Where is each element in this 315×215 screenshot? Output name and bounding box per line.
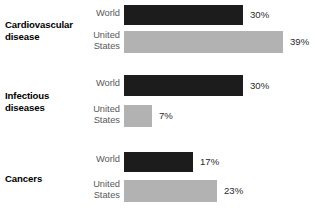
bar-row-cardiovascular-world: World 30%: [0, 4, 315, 31]
bar-value-world-infectious: 30%: [250, 80, 269, 91]
series-label-world: World: [0, 78, 120, 89]
bar-row-cardiovascular-united-states: United States 39%: [0, 30, 315, 57]
bar-value-united-states-infectious: 7%: [159, 110, 173, 121]
bar-world-cardiovascular: [124, 5, 243, 25]
series-label-united-states: United States: [0, 104, 120, 126]
series-label-united-states: United States: [0, 179, 120, 201]
series-label-united-states: United States: [0, 30, 120, 52]
series-label-line1: United: [0, 104, 120, 115]
series-label-line1: United: [0, 179, 120, 190]
series-label-world: World: [0, 154, 120, 165]
series-label-line1: United: [0, 30, 120, 41]
series-label-line2: States: [0, 41, 120, 52]
chart-group-cancers: Cancers World 17% United States 23%: [0, 147, 315, 209]
bar-row-infectious-world: World 30%: [0, 74, 315, 101]
bar-united-states-infectious: [124, 105, 152, 127]
bar-value-world-cardiovascular: 30%: [250, 9, 269, 20]
series-label-line1: World: [0, 78, 120, 89]
bar-united-states-cardiovascular: [124, 31, 283, 53]
bar-value-united-states-cardiovascular: 39%: [290, 36, 309, 47]
bar-world-infectious: [124, 75, 243, 96]
bar-united-states-cancers: [124, 180, 217, 202]
series-label-line1: World: [0, 154, 120, 165]
bar-row-infectious-united-states: United States 7%: [0, 103, 315, 130]
series-label-line2: States: [0, 190, 120, 201]
bar-row-cancers-united-states: United States 23%: [0, 177, 315, 204]
chart-group-cardiovascular-disease: Cardiovascular disease World 30% United …: [0, 0, 315, 62]
chart-group-infectious-diseases: Infectious diseases World 30% United Sta…: [0, 70, 315, 132]
series-label-line2: States: [0, 115, 120, 126]
bar-value-united-states-cancers: 23%: [224, 185, 243, 196]
series-label-world: World: [0, 8, 120, 19]
series-label-line1: World: [0, 8, 120, 19]
bar-world-cancers: [124, 152, 193, 172]
bar-row-cancers-world: World 17%: [0, 150, 315, 177]
bar-value-world-cancers: 17%: [200, 156, 219, 167]
grouped-bar-chart: Cardiovascular disease World 30% United …: [0, 0, 315, 215]
